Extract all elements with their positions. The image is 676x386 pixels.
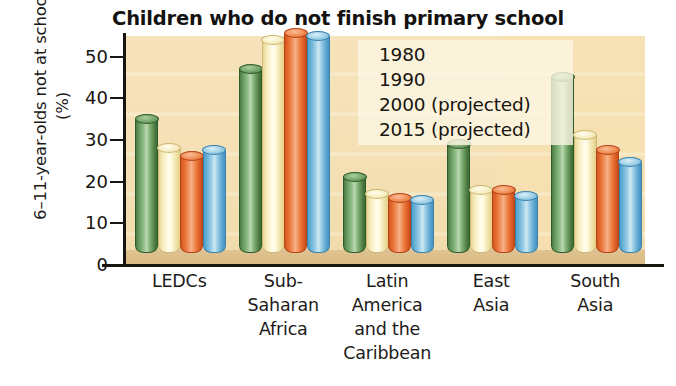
bar-cylinder-body — [239, 68, 262, 253]
x-axis-label-5: SouthAsia — [539, 269, 651, 317]
y-tick-label: 50 — [72, 46, 108, 67]
bar-cylinder-top — [492, 185, 516, 195]
y-tick-label: 20 — [72, 171, 108, 192]
y-tick-mark — [110, 222, 124, 224]
bar-group — [135, 36, 224, 251]
y-tick-label-wrap: 40 — [62, 98, 108, 99]
bar-cylinder-body — [447, 143, 470, 253]
bar-cylinder-top — [202, 145, 226, 155]
legend-swatch-top — [358, 71, 376, 78]
bar-1990-2[interactable] — [262, 39, 283, 251]
y-tick-label: 40 — [72, 87, 108, 108]
bar-1980-4[interactable] — [447, 143, 468, 251]
y-tick-mark — [110, 97, 124, 99]
bar-cylinder-body — [574, 134, 597, 253]
x-axis-label-line: Asia — [539, 293, 651, 317]
y-tick-label: 30 — [72, 129, 108, 150]
legend-label: 1990 — [379, 69, 425, 90]
legend-label: 2000 (projected) — [379, 94, 531, 115]
bar-1990-3[interactable] — [366, 193, 387, 251]
bar-cylinder-body — [388, 197, 411, 253]
x-axis-label-line: Saharan — [227, 293, 339, 317]
x-axis-label-line: Africa — [227, 317, 339, 341]
legend-item-2015[interactable]: 2015 (projected) — [358, 117, 573, 142]
bar-cylinder-body — [411, 199, 434, 253]
legend-swatch-top — [358, 121, 376, 128]
bar-2015-3[interactable] — [411, 199, 432, 251]
bar-2000-1[interactable] — [180, 155, 201, 251]
bar-cylinder-body — [158, 147, 181, 253]
x-axis-label-line: Sub- — [227, 269, 339, 293]
bar-cylinder-body — [262, 39, 285, 253]
bar-cylinder-body — [307, 35, 330, 254]
bar-cylinder-top — [596, 145, 620, 155]
legend-swatch-top — [358, 96, 376, 103]
cylinder-orange-icon — [358, 96, 376, 113]
bar-2015-4[interactable] — [515, 195, 536, 251]
x-axis-label-line: Latin — [331, 269, 443, 293]
bar-2000-4[interactable] — [492, 189, 513, 251]
bar-2015-2[interactable] — [307, 35, 328, 252]
bar-2000-5[interactable] — [596, 149, 617, 251]
bar-cylinder-body — [203, 149, 226, 253]
bar-cylinder-body — [343, 176, 366, 253]
bar-cylinder-top — [180, 151, 204, 161]
bar-1990-4[interactable] — [470, 189, 491, 251]
bar-cylinder-top — [239, 64, 263, 74]
bar-cylinder-top — [157, 143, 181, 153]
bar-cylinder-body — [180, 155, 203, 253]
legend-item-1980[interactable]: 1980 — [358, 42, 573, 67]
bar-cylinder-body — [619, 161, 642, 253]
legend-label: 1980 — [379, 44, 425, 65]
x-axis-label-2: Sub-SaharanAfrica — [227, 269, 339, 341]
legend-swatch-top — [358, 46, 376, 53]
bar-2000-3[interactable] — [388, 197, 409, 251]
cylinder-green-icon — [358, 46, 376, 63]
y-tick-mark — [110, 181, 124, 183]
bar-cylinder-top — [388, 193, 412, 203]
legend-item-1990[interactable]: 1990 — [358, 67, 573, 92]
x-axis-label-line: South — [539, 269, 651, 293]
y-tick-mark — [110, 139, 124, 141]
y-tick-label-wrap: 50 — [62, 57, 108, 58]
x-axis-label-line: East — [435, 269, 547, 293]
bar-1980-2[interactable] — [239, 68, 260, 251]
bar-2000-2[interactable] — [284, 32, 305, 251]
legend-label: 2015 (projected) — [379, 119, 531, 140]
bar-1980-1[interactable] — [135, 118, 156, 251]
bar-cylinder-body — [366, 193, 389, 253]
x-axis-label-1: LEDCs — [123, 269, 235, 293]
chart-legend: 198019902000 (projected)2015 (projected) — [358, 40, 573, 145]
bar-2015-1[interactable] — [203, 149, 224, 251]
bar-cylinder-body — [135, 118, 158, 253]
x-axis-labels: LEDCsSub-SaharanAfricaLatinAmericaand th… — [126, 269, 645, 379]
bar-1990-1[interactable] — [158, 147, 179, 251]
bar-cylinder-top — [365, 189, 389, 199]
chart-title: Children who do not finish primary schoo… — [0, 7, 676, 30]
bar-cylinder-body — [515, 195, 538, 253]
y-tick-mark — [110, 264, 124, 266]
bar-1990-5[interactable] — [574, 134, 595, 251]
y-tick-label-wrap: 10 — [62, 223, 108, 224]
bar-cylinder-top — [261, 35, 285, 45]
legend-item-2000[interactable]: 2000 (projected) — [358, 92, 573, 117]
bar-2015-5[interactable] — [619, 161, 640, 251]
bar-cylinder-top — [135, 114, 159, 124]
bar-cylinder-body — [284, 32, 307, 253]
bar-cylinder-top — [514, 191, 538, 201]
x-axis-label-line: and the — [331, 317, 443, 341]
cylinder-blue-icon — [358, 121, 376, 138]
bar-cylinder-body — [492, 189, 515, 253]
x-axis-label-line: America — [331, 293, 443, 317]
x-axis-label-3: LatinAmericaand theCaribbean — [331, 269, 443, 365]
x-axis-label-line: Caribbean — [331, 341, 443, 365]
bar-1980-3[interactable] — [343, 176, 364, 251]
bar-cylinder-body — [470, 189, 493, 253]
x-axis-label-line: Asia — [435, 293, 547, 317]
x-axis-label-4: EastAsia — [435, 269, 547, 317]
bar-cylinder-body — [596, 149, 619, 253]
y-tick-label: 10 — [72, 212, 108, 233]
cylinder-yellow-icon — [358, 71, 376, 88]
bar-cylinder-top — [410, 195, 434, 205]
bar-cylinder-top — [343, 172, 367, 182]
